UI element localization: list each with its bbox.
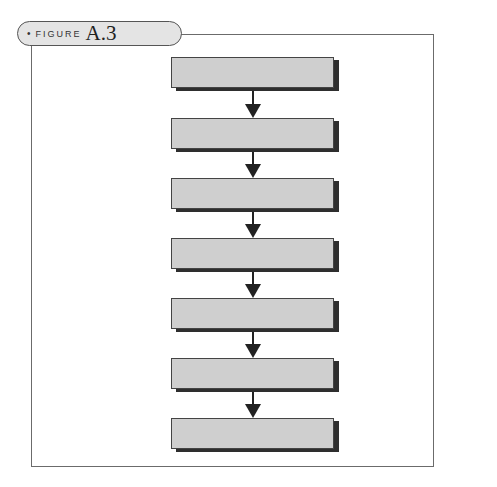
arrow-down-icon [245,344,261,358]
flow-box-2 [171,118,334,149]
flow-box-3 [171,178,334,209]
arrow-down-icon [245,284,261,298]
arrow-down-icon [245,404,261,418]
flow-box-1 [171,57,334,88]
arrow-down-icon [245,224,261,238]
flow-box-6 [171,358,334,389]
arrow-down-icon [245,164,261,178]
figure-header: • FIGURE A.3 [17,21,182,46]
figure-label: FIGURE [36,29,82,39]
bullet-icon: • [27,28,31,39]
flow-box-5 [171,298,334,329]
arrow-down-icon [245,104,261,118]
figure-number: A.3 [86,23,117,44]
flow-box-4 [171,238,334,269]
flow-box-7 [171,418,334,449]
